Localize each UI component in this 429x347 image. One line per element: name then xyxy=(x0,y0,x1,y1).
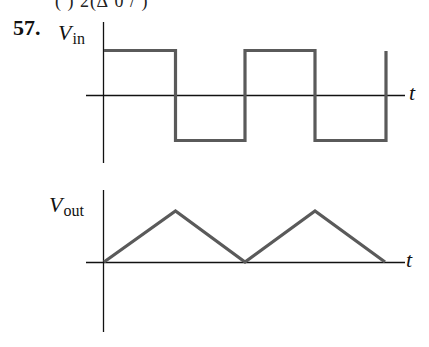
waveform-plots xyxy=(0,0,429,347)
vout-triangle-wave xyxy=(104,211,385,262)
